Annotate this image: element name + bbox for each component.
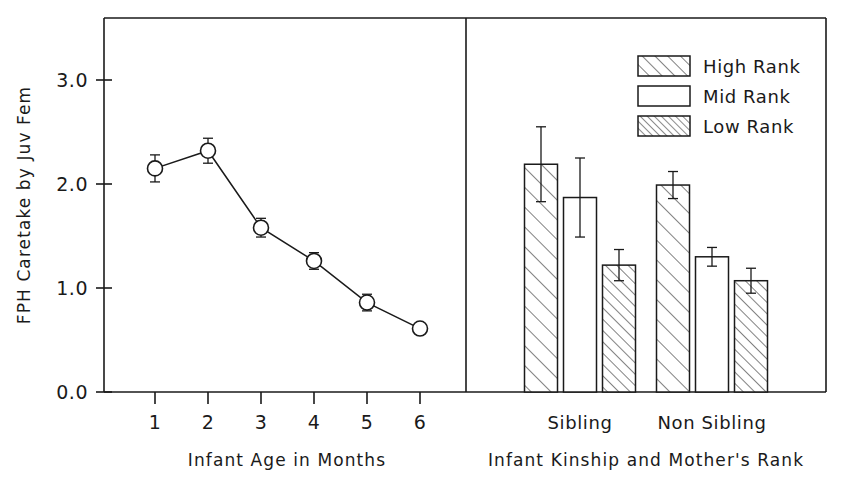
bar [735,281,768,392]
left-x-ticklabel-1: 1 [149,411,162,433]
marker-open-circle [201,143,216,158]
legend-item: High Rank [638,56,800,77]
left-x-ticklabel-4: 4 [308,411,321,433]
marker-open-circle [360,295,375,310]
left-x-axis-title: Infant Age in Months [188,450,386,470]
y-ticklabel-1: 1.0 [56,277,88,299]
bar-group-item [696,247,729,392]
bar-group-item [735,268,768,392]
chart-canvas: 3.0 2.0 1.0 0.0 FPH Caretake by Juv Fem … [0,0,844,479]
data-point [307,253,322,270]
left-x-ticklabel-5: 5 [361,411,374,433]
figure-container: 3.0 2.0 1.0 0.0 FPH Caretake by Juv Fem … [0,0,844,479]
bar [603,265,636,392]
legend-label: Mid Rank [703,86,790,107]
legend: High RankMid RankLow Rank [638,56,800,137]
left-x-ticklabel-2: 2 [202,411,215,433]
y-ticklabel-2: 2.0 [56,173,88,195]
bar-group-item [525,127,558,392]
marker-open-circle [254,220,269,235]
legend-label: Low Rank [703,116,794,137]
right-x-ticklabel-non-sibling: Non Sibling [658,412,767,433]
right-x-axis-title: Infant Kinship and Mother's Rank [488,450,804,470]
marker-open-circle [413,321,428,336]
data-point [413,321,428,336]
bar-group-item [603,250,636,392]
y-ticklabel-0: 0.0 [56,381,88,403]
bar-group-item [657,172,690,392]
bar [657,185,690,392]
marker-open-circle [148,161,163,176]
right-x-ticklabel-sibling: Sibling [548,412,613,433]
left-x-ticklabel-6: 6 [414,411,427,433]
y-ticklabel-3: 3.0 [56,69,88,91]
legend-item: Low Rank [638,116,794,137]
data-point [360,294,375,311]
legend-swatch-high-rank [638,56,690,76]
legend-label: High Rank [703,56,800,77]
y-axis-title: FPH Caretake by Juv Fem [14,86,34,324]
legend-swatch-mid-rank [638,86,690,106]
legend-swatch-low-rank [638,116,690,136]
bar [696,257,729,392]
left-x-ticklabel-3: 3 [255,411,268,433]
legend-item: Mid Rank [638,86,790,107]
marker-open-circle [307,253,322,268]
